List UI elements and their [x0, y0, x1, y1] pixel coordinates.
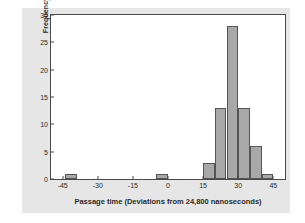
- histogram-bar: [227, 26, 239, 179]
- y-axis-tick-label: 10: [40, 121, 48, 128]
- y-axis-tick-mark: [51, 124, 54, 125]
- x-axis-tick-label: 30: [234, 182, 242, 189]
- x-axis-tick-label: 15: [199, 182, 207, 189]
- x-axis-tick-label: -45: [58, 182, 68, 189]
- histogram-figure: 051015202530 -45-30-150153045 Frequency …: [0, 0, 305, 223]
- x-axis-tick-mark: [168, 176, 169, 179]
- x-axis-tick-label: 45: [269, 182, 277, 189]
- y-axis-tick-label: 0: [44, 176, 48, 183]
- x-axis-tick-mark: [203, 176, 204, 179]
- x-axis-tick-label: 0: [166, 182, 170, 189]
- plot-area: 051015202530 -45-30-150153045 Frequency: [50, 14, 286, 180]
- x-axis-tick-mark: [97, 176, 98, 179]
- histogram-bar: [262, 174, 274, 179]
- histogram-bar: [65, 174, 77, 179]
- y-axis-title: Frequency: [42, 0, 49, 75]
- x-axis-tick-mark: [238, 176, 239, 179]
- histogram-bar: [203, 163, 215, 179]
- y-axis-tick-label: 5: [44, 148, 48, 155]
- histogram-bar: [156, 174, 168, 179]
- y-axis-tick-mark: [51, 97, 54, 98]
- y-axis-tick-mark: [51, 179, 54, 180]
- histogram-bar: [238, 108, 250, 179]
- x-axis-title: Passage time (Deviations from 24,800 nan…: [50, 197, 286, 206]
- y-axis-tick-label: 15: [40, 94, 48, 101]
- histogram-bar: [250, 146, 262, 179]
- x-axis-tick-mark: [62, 176, 63, 179]
- y-axis-tick-mark: [51, 15, 54, 16]
- x-axis-tick-label: -30: [93, 182, 103, 189]
- y-axis-tick-mark: [51, 151, 54, 152]
- x-axis-tick-mark: [132, 176, 133, 179]
- x-axis-tick-label: -15: [128, 182, 138, 189]
- y-axis-tick-mark: [51, 69, 54, 70]
- histogram-bar: [215, 108, 227, 179]
- x-axis-tick-mark: [273, 176, 274, 179]
- y-axis-tick-mark: [51, 42, 54, 43]
- bars-layer: [51, 15, 285, 179]
